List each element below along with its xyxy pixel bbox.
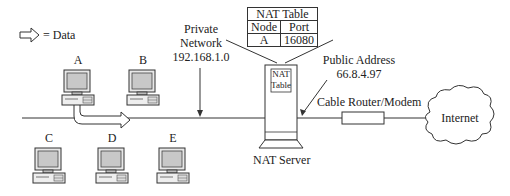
nat-table: NAT Table Node Port A 16080 <box>247 7 318 47</box>
nat-table-cell: 16080 <box>281 34 318 47</box>
cable-router-icon <box>342 112 384 124</box>
public-address-line1: Public Address <box>319 53 399 67</box>
private-network-address: 192.168.1.0 <box>171 50 231 64</box>
computer-e-label: E <box>165 131 181 145</box>
public-address-value: 66.8.4.97 <box>319 67 399 81</box>
server-inner-label-1: NAT <box>271 69 291 80</box>
computer-a-label: A <box>70 53 86 67</box>
internet-label: Internet <box>438 111 482 125</box>
private-network-label: Private Network 192.168.1.0 <box>171 22 231 64</box>
private-network-line2: Network <box>171 36 231 50</box>
computer-b-label: B <box>135 53 151 67</box>
legend-label: = Data <box>43 28 75 42</box>
computer-a-icon <box>62 70 94 105</box>
server-inner-label-2: Table <box>271 80 291 91</box>
public-address-label: Public Address 66.8.4.97 <box>319 53 399 81</box>
hollow-right-arrow-icon <box>20 28 39 42</box>
nat-table-cell: A <box>248 34 281 47</box>
nat-table-header: Port <box>281 21 318 34</box>
nat-server-label: NAT Server <box>253 153 309 167</box>
nat-table-title: NAT Table <box>248 8 318 21</box>
computer-e-icon <box>157 148 189 183</box>
computer-c-label: C <box>41 131 57 145</box>
computer-d-label: D <box>104 131 120 145</box>
server-inner-label: NAT Table <box>271 69 291 91</box>
computer-d-icon <box>96 148 128 183</box>
data-flow-arrow <box>74 104 130 128</box>
computer-c-icon <box>33 148 65 183</box>
computer-b-icon <box>127 70 159 105</box>
nat-table-header: Node <box>248 21 281 34</box>
private-network-line1: Private <box>171 22 231 36</box>
cable-router-label: Cable Router/Modem <box>317 95 421 109</box>
